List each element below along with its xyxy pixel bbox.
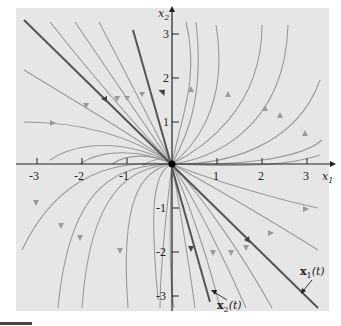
svg-text:1: 1 [213,169,219,183]
svg-text:-3: -3 [29,169,39,183]
svg-text:-1: -1 [156,201,166,215]
svg-text:2: 2 [163,71,169,85]
svg-text:-2: -2 [74,169,84,183]
x1-axis-arrow-icon [330,161,336,167]
svg-text:-2: -2 [156,245,166,259]
footer-rule [0,322,32,325]
x2-solution-label: x2(t) [217,299,242,314]
svg-text:3: 3 [303,169,309,183]
x1-axis-label: x1 [322,170,333,185]
equilibrium-point [169,161,176,168]
phase-portrait: -3 -2 -1 1 2 3 3 2 1 -1 -2 -3 x1 x2 x1(t… [0,0,341,326]
svg-text:2: 2 [258,169,264,183]
x1-solution-label: x1(t) [300,265,325,280]
svg-text:1: 1 [163,115,169,129]
svg-text:3: 3 [163,27,169,41]
svg-text:-1: -1 [119,169,129,183]
svg-text:-3: -3 [156,289,166,303]
